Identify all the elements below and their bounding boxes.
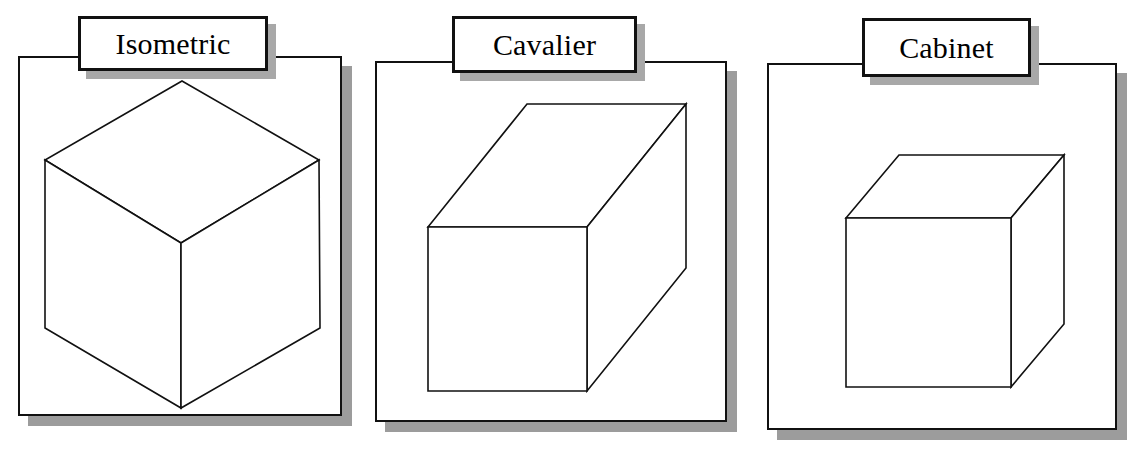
cube-cabinet (836, 145, 1076, 395)
figure-canvas: Isometric Cavalier Cabinet (0, 0, 1146, 453)
cube-isometric (33, 72, 333, 412)
cube-cavalier (415, 90, 705, 400)
label-text-cavalier: Cavalier (493, 30, 596, 60)
label-box-cavalier[interactable]: Cavalier (452, 16, 637, 73)
cube-face-front (428, 227, 587, 391)
label-text-isometric: Isometric (115, 29, 230, 59)
cube-face-front (846, 218, 1011, 387)
label-text-cabinet: Cabinet (899, 33, 994, 63)
label-box-cabinet[interactable]: Cabinet (862, 18, 1031, 77)
label-box-isometric[interactable]: Isometric (78, 16, 268, 71)
